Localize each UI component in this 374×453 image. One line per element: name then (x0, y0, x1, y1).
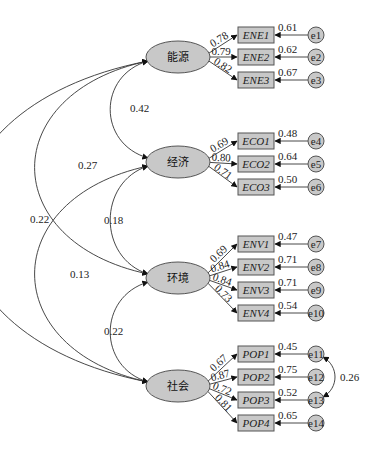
error-node: e12 (308, 369, 324, 385)
indicator-node: ENE2 (238, 49, 274, 65)
r-squared-value: 0.45 (278, 340, 298, 352)
indicator-label: ECO3 (241, 181, 270, 193)
error-label: e3 (311, 74, 322, 86)
error-label: e9 (311, 284, 322, 296)
error-node: e5 (308, 156, 324, 172)
error-node: e11 (308, 346, 324, 362)
indicator-node: ENE1 (238, 27, 274, 43)
error-label: e14 (308, 417, 324, 429)
error-node: e9 (308, 282, 324, 298)
indicator-node: ECO3 (238, 179, 274, 195)
error-node: e2 (308, 49, 324, 65)
indicator-label: ENV2 (242, 261, 270, 273)
error-covariance-value: 0.26 (340, 371, 360, 383)
error-node: e1 (308, 27, 324, 43)
latent-label: 社会 (167, 379, 189, 393)
latent-label: 环境 (167, 271, 189, 285)
indicator-label: POP4 (242, 417, 270, 429)
nodes: 能源经济环境社会ENE1e1ENE2e2ENE3e3ECO1e4ECO2e5EC… (146, 27, 324, 431)
error-node: e4 (308, 133, 324, 149)
error-node: e14 (308, 415, 324, 431)
indicator-node: ENV4 (238, 305, 274, 321)
indicator-label: ENE1 (242, 29, 269, 41)
r-squared-value: 0.52 (278, 386, 297, 398)
indicator-label: ECO1 (241, 135, 270, 147)
error-label: e12 (308, 371, 324, 383)
indicator-label: POP1 (242, 348, 270, 360)
latent-node: 环境 (146, 262, 210, 294)
indicator-node: ECO1 (238, 133, 274, 149)
error-label: e2 (311, 51, 321, 63)
indicator-node: POP4 (238, 415, 274, 431)
indicator-label: POP3 (242, 394, 270, 406)
indicator-node: ECO2 (238, 156, 274, 172)
latent-correlations (0, 61, 148, 382)
indicator-label: ENV1 (242, 238, 269, 250)
indicator-label: ENE3 (242, 74, 270, 86)
error-node: e8 (308, 259, 324, 275)
r-squared-value: 0.62 (278, 43, 297, 55)
r-squared-value: 0.54 (278, 299, 298, 311)
r-squared-value: 0.50 (278, 173, 298, 185)
indicator-node: ENV2 (238, 259, 274, 275)
indicator-label: ECO2 (241, 158, 270, 170)
loading-value: 0.73 (213, 282, 235, 304)
r-squared-value: 0.48 (278, 127, 298, 139)
indicator-label: ENE2 (242, 51, 270, 63)
error-label: e4 (311, 135, 322, 147)
error-label: e13 (308, 394, 324, 406)
error-node: e6 (308, 179, 324, 195)
error-label: e10 (308, 307, 324, 319)
correlation-value: 0.22 (104, 325, 123, 337)
correlation-value: 0.13 (70, 268, 90, 280)
latent-node: 经济 (146, 146, 210, 178)
correlation-arc-l1-l4 (0, 61, 148, 382)
loading-value: 0.79 (211, 45, 231, 57)
indicator-node: POP3 (238, 392, 274, 408)
error-covariance-arc (323, 357, 335, 397)
loading-value: 0.82 (212, 55, 235, 76)
indicator-node: POP2 (238, 369, 274, 385)
latent-label: 能源 (167, 50, 189, 64)
loading-value: 0.81 (213, 391, 235, 413)
r-squared-value: 0.71 (278, 276, 297, 288)
indicator-label: ENV3 (242, 284, 270, 296)
indicator-node: ENE3 (238, 72, 274, 88)
error-label: e8 (311, 261, 322, 273)
correlation-value: 0.18 (104, 214, 124, 226)
r-squared-value: 0.67 (278, 66, 298, 78)
correlation-arc-l2-l4 (35, 166, 148, 382)
error-node: e10 (308, 305, 324, 321)
correlation-value: 0.42 (130, 102, 149, 114)
indicator-label: POP2 (242, 371, 270, 383)
indicator-node: ENV3 (238, 282, 274, 298)
r-squared-value: 0.61 (278, 21, 297, 33)
sem-diagram: 能源经济环境社会ENE1e1ENE2e2ENE3e3ECO1e4ECO2e5EC… (0, 0, 374, 453)
latent-label: 经济 (167, 155, 189, 169)
correlation-value: 0.22 (30, 213, 49, 225)
loading-paths (208, 35, 335, 423)
latent-node: 社会 (146, 370, 210, 402)
error-label: e11 (308, 348, 323, 360)
error-node: e7 (308, 236, 324, 252)
r-squared-value: 0.71 (278, 253, 297, 265)
indicator-node: ENV1 (238, 236, 274, 252)
indicator-node: POP1 (238, 346, 274, 362)
r-squared-value: 0.65 (278, 409, 298, 421)
indicator-label: ENV4 (242, 307, 270, 319)
r-squared-value: 0.47 (278, 230, 298, 242)
r-squared-value: 0.75 (278, 363, 298, 375)
error-node: e3 (308, 72, 324, 88)
latent-node: 能源 (146, 41, 210, 73)
error-label: e1 (311, 29, 321, 41)
error-label: e5 (311, 158, 322, 170)
error-node: e13 (308, 392, 324, 408)
error-label: e7 (311, 238, 322, 250)
error-label: e6 (311, 181, 322, 193)
r-squared-value: 0.64 (278, 150, 298, 162)
correlation-value: 0.27 (78, 159, 98, 171)
